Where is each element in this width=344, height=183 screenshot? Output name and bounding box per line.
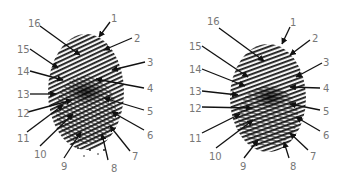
callout-arrow-2: [104, 38, 132, 50]
callout-label-15: 15: [189, 42, 202, 52]
callout-label-7: 7: [132, 152, 138, 162]
callout-arrow-16: [219, 28, 264, 61]
callout-label-4: 4: [323, 84, 329, 94]
callout-arrow-7: [110, 126, 130, 151]
callout-label-16: 16: [28, 19, 41, 29]
callout-label-5: 5: [147, 107, 153, 117]
callout-label-14: 14: [17, 67, 30, 77]
callout-label-4: 4: [147, 84, 153, 94]
callout-label-14: 14: [189, 65, 202, 75]
callout-label-2: 2: [134, 34, 140, 44]
callout-label-9: 9: [61, 162, 67, 172]
fingerprint-panel-right: 12345678910111213141516: [172, 0, 344, 183]
callout-label-10: 10: [34, 150, 47, 160]
callout-arrow-1: [282, 27, 290, 44]
callout-arrow-2: [290, 40, 310, 55]
callout-label-9: 9: [240, 162, 246, 172]
callout-label-12: 12: [17, 109, 30, 119]
callout-label-15: 15: [17, 45, 30, 55]
callout-label-2: 2: [312, 34, 318, 44]
callout-label-3: 3: [323, 58, 329, 68]
callout-label-8: 8: [111, 164, 117, 174]
callout-arrow-11: [202, 114, 240, 133]
callout-label-3: 3: [147, 58, 153, 68]
callout-label-8: 8: [290, 162, 296, 172]
callout-label-11: 11: [189, 134, 202, 144]
callout-label-11: 11: [17, 134, 30, 144]
callout-arrow-1: [99, 22, 110, 37]
callout-label-10: 10: [209, 152, 222, 162]
callout-label-16: 16: [207, 17, 220, 27]
callout-arrow-15: [30, 49, 58, 68]
callout-label-13: 13: [17, 90, 30, 100]
callout-label-6: 6: [147, 131, 153, 141]
callout-label-7: 7: [310, 152, 316, 162]
callout-arrow-7: [290, 133, 308, 150]
callout-label-12: 12: [189, 104, 202, 114]
callout-label-13: 13: [189, 87, 202, 97]
fingerprint-panel-left: 12345678910111213141516: [0, 0, 172, 183]
callout-label-5: 5: [323, 107, 329, 117]
callout-label-6: 6: [323, 131, 329, 141]
callout-label-1: 1: [111, 14, 117, 24]
callout-label-1: 1: [290, 18, 296, 28]
